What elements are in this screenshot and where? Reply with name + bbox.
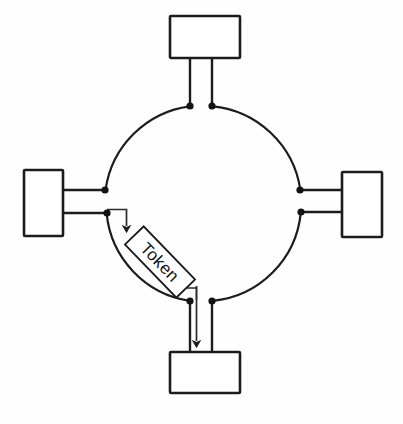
tap-left-lower (103, 209, 110, 216)
tap-right-upper (296, 186, 303, 193)
diagram-canvas: Token (0, 0, 403, 424)
ring-taps (101, 102, 304, 304)
ring-arc-left-top (106, 106, 190, 189)
drop-cables (63, 58, 342, 352)
ring-arc-right-bottom (213, 212, 301, 300)
station-left[interactable] (24, 170, 63, 236)
station-right[interactable] (342, 172, 382, 237)
station-bottom[interactable] (170, 352, 240, 393)
token-ring-diagram: Token (0, 0, 403, 424)
token-tag[interactable]: Token (125, 226, 195, 297)
tap-bottom-right (208, 297, 215, 304)
station-top[interactable] (170, 16, 240, 58)
tap-left-upper (101, 186, 108, 193)
ring-arc-top-right (212, 106, 300, 189)
station-boxes (24, 16, 382, 393)
tap-right-lower (297, 208, 304, 215)
tap-top-left (186, 102, 193, 109)
tap-bottom-left (186, 297, 193, 304)
tap-top-right (208, 102, 215, 109)
ring-bus (106, 106, 301, 301)
